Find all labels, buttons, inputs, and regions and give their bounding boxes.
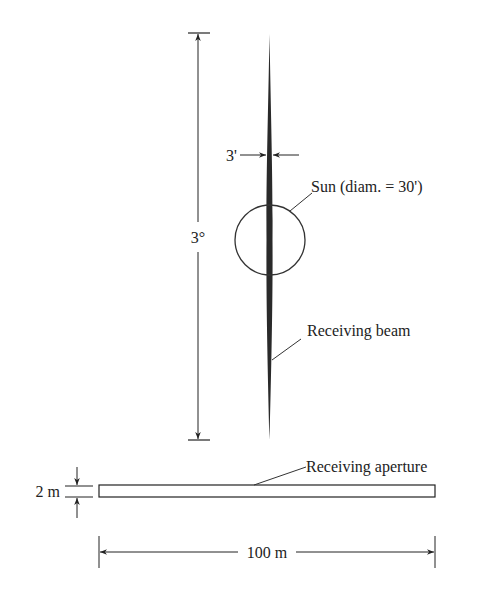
beam-leader-line xyxy=(272,339,301,360)
receiving-beam-callout: Receiving beam xyxy=(272,322,411,360)
sun-label: Sun (diam. = 30') xyxy=(311,178,422,196)
aperture-rect xyxy=(99,485,435,497)
aperture-leader-line xyxy=(254,467,306,485)
aperture-height-label: 2 m xyxy=(36,483,61,500)
receiving-beam xyxy=(266,34,272,440)
aperture-width-label: 100 m xyxy=(247,544,288,561)
receiving-beam-label: Receiving beam xyxy=(307,322,411,340)
beam-length-label: 3° xyxy=(191,229,205,246)
sun-leader-line xyxy=(290,193,312,211)
sun: Sun (diam. = 30') xyxy=(235,178,422,275)
beam-length-dimension: 3° xyxy=(188,33,210,440)
beam-width-dimension: 3' xyxy=(226,147,299,164)
beam-diagram: 3° 3' Sun (diam. = 30') Receiving beam R… xyxy=(0,0,486,591)
aperture-width-dimension: 100 m xyxy=(99,536,435,568)
beam-width-label: 3' xyxy=(226,147,237,164)
aperture-height-dimension: 2 m xyxy=(36,467,93,518)
receiving-aperture: Receiving aperture xyxy=(99,458,435,497)
receiving-aperture-label: Receiving aperture xyxy=(306,458,427,476)
